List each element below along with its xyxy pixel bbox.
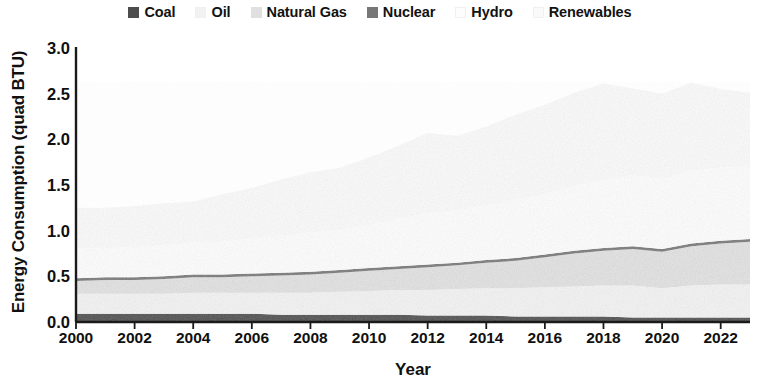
legend-label-oil: Oil [211, 4, 230, 20]
legend-swatch-coal [128, 7, 139, 18]
chart-legend: Coal Oil Natural Gas Nuclear Hydro Renew… [0, 0, 760, 24]
legend-entry-oil[interactable]: Oil [195, 4, 230, 20]
legend-entry-natural-gas[interactable]: Natural Gas [251, 4, 347, 20]
x-tick-label: 2014 [469, 329, 503, 347]
y-axis-label: Energy Consumption (quad BTU) [9, 32, 29, 332]
legend-entry-hydro[interactable]: Hydro [455, 4, 512, 20]
y-tick-label: 1.5 [26, 176, 70, 195]
x-tick-label: 2004 [176, 329, 210, 347]
legend-label-natural-gas: Natural Gas [267, 4, 347, 20]
y-tick-label: 2.5 [26, 84, 70, 103]
y-tick-label: 2.0 [26, 130, 70, 149]
legend-swatch-renewables [533, 7, 544, 18]
x-tick-label: 2020 [645, 329, 679, 347]
x-tick-label: 2012 [410, 329, 444, 347]
x-tick-label: 2000 [59, 329, 93, 347]
x-tick-label: 2018 [586, 329, 620, 347]
legend-entry-coal[interactable]: Coal [128, 4, 175, 20]
legend-label-hydro: Hydro [471, 4, 512, 20]
legend-label-nuclear: Nuclear [383, 4, 436, 20]
legend-label-coal: Coal [144, 4, 175, 20]
legend-swatch-oil [195, 7, 206, 18]
legend-swatch-nuclear [367, 7, 378, 18]
x-tick-label: 2010 [352, 329, 386, 347]
x-tick-label: 2016 [528, 329, 562, 347]
x-tick-label: 2008 [293, 329, 327, 347]
stacked-areas [76, 83, 750, 322]
x-tick-label: 2002 [117, 329, 151, 347]
legend-label-renewables: Renewables [549, 4, 632, 20]
energy-consumption-area-chart: Coal Oil Natural Gas Nuclear Hydro Renew… [0, 0, 760, 390]
legend-swatch-natural-gas [251, 7, 262, 18]
plot-area: 0.00.51.01.52.02.53.0 200020022004200620… [0, 24, 760, 390]
y-tick-label: 0.5 [26, 267, 70, 286]
y-tick-label: 1.0 [26, 221, 70, 240]
legend-entry-nuclear[interactable]: Nuclear [367, 4, 436, 20]
legend-entry-renewables[interactable]: Renewables [533, 4, 632, 20]
legend-swatch-hydro [455, 7, 466, 18]
x-tick-label: 2022 [703, 329, 737, 347]
x-tick-label: 2006 [235, 329, 269, 347]
x-axis-label: Year [76, 360, 750, 380]
y-tick-label: 3.0 [26, 39, 70, 58]
